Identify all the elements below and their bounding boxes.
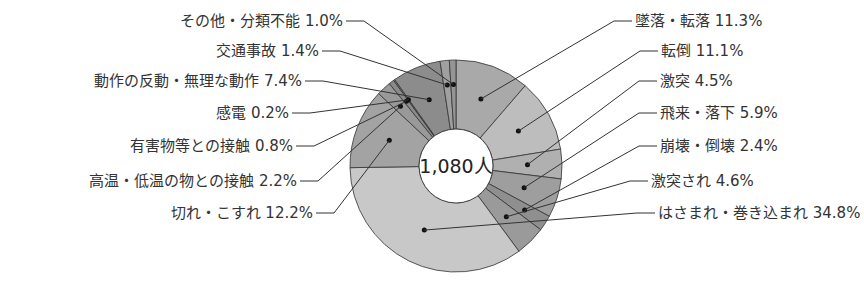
slice-label: その他・分類不能 1.0% xyxy=(180,12,343,30)
slice-label: 飛来・落下 5.9% xyxy=(660,104,778,122)
slice-label: 動作の反動・無理な動作 7.4% xyxy=(94,72,302,90)
slice-label: 切れ・こすれ 12.2% xyxy=(171,204,313,222)
slice-label: 感電 0.2% xyxy=(216,104,289,122)
slice-label: 有害物等との接触 0.8% xyxy=(130,137,293,155)
donut-chart: 1,080人 墜落・転落 11.3%転倒 11.1%激突 4.5%飛来・落下 5… xyxy=(0,0,864,285)
slice-label: 転倒 11.1% xyxy=(661,42,743,60)
slice-label: 激突され 4.6% xyxy=(651,172,754,190)
center-total-label: 1,080人 xyxy=(419,155,492,177)
slice-label: 崩壊・倒壊 2.4% xyxy=(660,137,778,155)
slice-label: はさまれ・巻き込まれ 34.8% xyxy=(658,204,860,222)
slice-label: 激突 4.5% xyxy=(660,72,733,90)
slice-label: 交通事故 1.4% xyxy=(216,42,319,60)
slice-label: 墜落・転落 11.3% xyxy=(635,12,762,30)
slice-label: 高温・低温の物との接触 2.2% xyxy=(89,172,297,190)
